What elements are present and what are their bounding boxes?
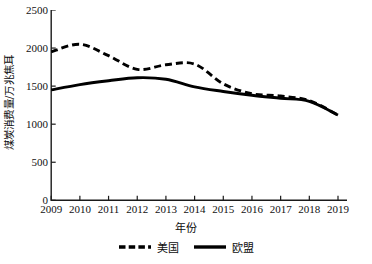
legend-swatch-dashed-icon <box>118 242 152 252</box>
legend-label-us: 美国 <box>157 239 179 255</box>
y-axis-tick-labels: 05001000150020002500 <box>14 0 48 212</box>
x-axis-tick-label: 2017 <box>270 203 292 216</box>
legend-label-eu: 欧盟 <box>232 239 254 255</box>
x-axis-tick-label: 2009 <box>40 203 62 216</box>
plot-svg <box>50 10 347 201</box>
y-axis-tick-label: 2000 <box>26 43 48 54</box>
x-axis-tick-label: 2011 <box>98 203 120 216</box>
legend-swatch-solid-icon <box>193 242 227 252</box>
x-axis-tick-label: 2014 <box>184 203 206 216</box>
series-layer <box>51 44 338 115</box>
x-axis-tick-label: 2015 <box>212 203 234 216</box>
y-axis-tick-label: 1500 <box>26 81 48 92</box>
legend-item-us: 美国 <box>118 239 179 255</box>
x-axis-tick-label: 2012 <box>126 203 148 216</box>
plot-area <box>50 10 347 201</box>
x-axis-tick-label: 2019 <box>327 203 349 216</box>
series-line-us <box>51 44 338 115</box>
coal-consumption-line-chart: 煤炭消费量/万兆焦耳 05001000150020002500 20092010… <box>0 0 372 264</box>
legend-item-eu: 欧盟 <box>193 239 254 255</box>
x-axis-title: 年份 <box>0 219 372 235</box>
y-axis-tick-label: 2500 <box>26 5 48 16</box>
x-axis-tick-labels: 2009201020112012201320142015201620172018… <box>50 203 347 219</box>
y-axis-tick-label: 500 <box>32 157 49 168</box>
axis-lines <box>51 10 347 201</box>
x-axis-tick-label: 2018 <box>298 203 320 216</box>
x-axis-tick-label: 2010 <box>69 203 91 216</box>
chart-legend: 美国 欧盟 <box>0 239 372 255</box>
x-axis-tick-label: 2016 <box>241 203 263 216</box>
x-axis-tick-label: 2013 <box>155 203 177 216</box>
y-axis-tick-label: 1000 <box>26 119 48 130</box>
